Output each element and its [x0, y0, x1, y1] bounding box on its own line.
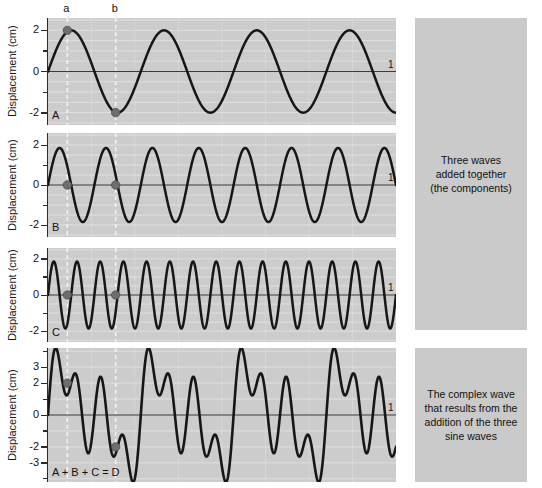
x-axis-end-label: 1 [388, 402, 394, 413]
panel-letter: A [52, 109, 59, 121]
guide-label-b: b [112, 2, 118, 14]
y-axis-title: Displacement (cm) [6, 348, 18, 482]
ytick-label: 0 [33, 178, 39, 190]
panel-a [48, 18, 396, 125]
y-axis-spine [47, 248, 48, 342]
y-axis-spine [47, 133, 48, 237]
panel-b [48, 133, 396, 237]
ytick-label: -2 [29, 218, 39, 230]
y-axis-spine [47, 18, 48, 125]
y-axis-title: Displacement (cm) [6, 248, 18, 342]
ytick-label: -3 [29, 456, 39, 468]
ytick-label: 2 [33, 23, 39, 35]
panel-c [48, 248, 396, 342]
guide-line-b [116, 16, 118, 19]
panel-letter: C [52, 326, 60, 338]
ytick-label: 0 [33, 288, 39, 300]
y-axis-title: Displacement (cm) [6, 133, 18, 237]
ytick-label: 2 [33, 376, 39, 388]
ytick-label: -2 [29, 324, 39, 336]
ytick-label: -2 [29, 440, 39, 452]
components-caption-text: Three waves added together (the componen… [430, 153, 512, 195]
panel-a-b-c-d [48, 348, 396, 482]
x-axis-end-label: 1 [388, 59, 394, 70]
x-axis-end-label: 1 [388, 282, 394, 293]
y-axis-spine [47, 348, 48, 482]
guide-label-a: a [63, 2, 69, 14]
x-axis-end-label: 1 [388, 172, 394, 183]
ytick-label: 3 [33, 360, 39, 372]
complex-wave-caption: The complex wave that results from the a… [415, 348, 527, 482]
complex-wave-caption-text: The complex wave that results from the a… [425, 387, 518, 443]
y-axis-title: Displacement (cm) [6, 18, 18, 125]
components-caption: Three waves added together (the componen… [415, 18, 527, 330]
wave-superposition-figure: 20-2A1Displacement (cm)20-2B1Displacemen… [0, 0, 542, 488]
panel-letter: B [52, 221, 59, 233]
ytick-label: 0 [33, 65, 39, 77]
guide-line-a [67, 16, 69, 19]
ytick-label: 2 [33, 138, 39, 150]
ytick-label: -2 [29, 106, 39, 118]
ytick-label: 0 [33, 408, 39, 420]
ytick-label: 2 [33, 252, 39, 264]
panel-letter: A + B + C = D [52, 466, 120, 478]
